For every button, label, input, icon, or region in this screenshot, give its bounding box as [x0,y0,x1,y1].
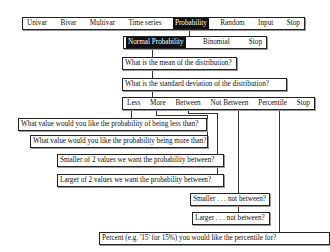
menu-item-random[interactable]: Random [218,18,246,29]
comparison-menu: Less More Between Not Between Percentile… [122,97,315,110]
connector-line [152,90,153,97]
between-larger-prompt[interactable]: Larger of 2 values we want the probabili… [57,174,224,187]
not-between-smaller-prompt[interactable]: Smaller . . . not between? [190,193,270,206]
choice-item-between[interactable]: Between [174,98,203,109]
choice-item-stop[interactable]: Stop [295,98,312,109]
menu-item-probability[interactable]: Probability [173,18,209,29]
menu-item-input[interactable]: Input [256,18,275,29]
sd-prompt[interactable]: What is the standard deviation of the di… [122,78,287,91]
connector-line [188,113,218,114]
submenu-item-stop[interactable]: Stop [247,37,264,48]
less-than-prompt[interactable]: What value would you like the probabilit… [18,118,207,131]
menu-item-univar[interactable]: Univar [25,18,49,29]
more-than-prompt[interactable]: What value would you like the probabilit… [30,135,208,148]
choice-item-not-between[interactable]: Not Between [209,98,251,109]
not-between-larger-prompt[interactable]: Larger . . . not between? [192,212,270,225]
mean-prompt[interactable]: What is the mean of the distribution? [122,57,237,70]
connector-line [131,110,132,118]
menu-item-multivar[interactable]: Multivar [88,18,117,29]
between-smaller-prompt[interactable]: Smaller of 2 values we want the probabil… [57,154,224,167]
main-menu-bar: Univar Bivar Multivar Time series Probab… [22,17,305,30]
connector-line [207,115,208,135]
percentile-prompt[interactable]: Percent (e.g. '15' for 15%) you would li… [99,232,330,245]
connector-line [189,29,190,36]
connector-line [279,110,280,232]
menu-item-time-series[interactable]: Time series [126,18,163,29]
choice-item-more[interactable]: More [148,98,168,109]
connector-line [156,115,208,116]
choice-item-percentile[interactable]: Percentile [256,98,289,109]
probability-submenu: Normal Probability Binomial Stop [123,36,267,49]
connector-line [152,48,153,57]
submenu-item-normal-probability[interactable]: Normal Probability [126,37,186,48]
connector-line [152,69,153,78]
choice-item-less[interactable]: Less [125,98,142,109]
submenu-item-binomial[interactable]: Binomial [201,37,232,48]
menu-item-bivar[interactable]: Bivar [58,18,78,29]
menu-item-stop[interactable]: Stop [285,18,302,29]
